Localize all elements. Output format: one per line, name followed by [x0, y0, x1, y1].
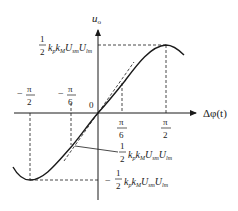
svg-text:2: 2 — [120, 154, 125, 164]
y-axis-label: uo — [92, 12, 102, 26]
phase-characteristic-diagram: uo Δφ(t) 0 − π 2 − π 6 π 6 π 2 1 2 kpkMU… — [0, 0, 238, 211]
svg-text:1: 1 — [40, 34, 45, 44]
tick-pi-over-6: π 6 — [117, 117, 127, 140]
svg-text:π: π — [119, 117, 124, 127]
slope-leader-line — [75, 146, 118, 152]
svg-text:π: π — [68, 84, 73, 94]
slope-annotation: 1 2 kpkMUsmUlm — [119, 141, 173, 164]
svg-text:−: − — [105, 175, 111, 186]
svg-text:−: − — [17, 88, 23, 99]
svg-text:1: 1 — [116, 168, 121, 178]
svg-text:2: 2 — [163, 130, 168, 140]
svg-text:−: − — [58, 88, 64, 99]
svg-text:6: 6 — [119, 130, 124, 140]
svg-text:π: π — [163, 117, 168, 127]
x-axis-label: Δφ(t) — [203, 107, 227, 120]
svg-text:π: π — [27, 84, 32, 94]
min-annotation: − 1 2 kpkMUsmUlm — [105, 168, 169, 191]
origin-label: 0 — [89, 100, 94, 110]
svg-text:kpkMUsmUlm: kpkMUsmUlm — [128, 149, 173, 161]
max-annotation: 1 2 kpkMUsmUlm — [39, 34, 93, 57]
tick-minus-pi-over-2: − π 2 — [17, 84, 35, 107]
svg-text:kpkMUsmUlm: kpkMUsmUlm — [124, 176, 169, 188]
svg-text:kpkMUsmUlm: kpkMUsmUlm — [48, 42, 93, 54]
tick-pi-over-2: π 2 — [161, 117, 171, 140]
svg-text:2: 2 — [27, 97, 32, 107]
svg-text:6: 6 — [68, 97, 73, 107]
svg-text:2: 2 — [40, 47, 45, 57]
tick-minus-pi-over-6: − π 6 — [58, 84, 76, 107]
svg-text:2: 2 — [116, 181, 121, 191]
svg-text:1: 1 — [120, 141, 125, 151]
